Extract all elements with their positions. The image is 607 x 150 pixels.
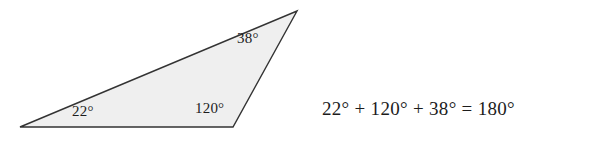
triangle-svg (0, 0, 310, 150)
angle-label-22: 22° (72, 104, 94, 119)
triangle-shape (20, 11, 297, 127)
angle-label-120: 120° (195, 101, 224, 116)
triangle-diagram (0, 0, 310, 150)
figure-root: 22° 120° 38° 22° + 120° + 38° = 180° (0, 0, 607, 150)
angle-label-38: 38° (237, 31, 259, 46)
angle-sum-equation: 22° + 120° + 38° = 180° (322, 99, 602, 120)
